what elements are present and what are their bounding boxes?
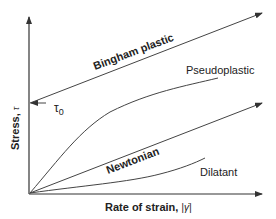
yield-stress-label: τ0	[54, 101, 64, 117]
pseudoplastic-curve	[30, 78, 218, 193]
rheology-diagram: τ0 Stress,τ Rate of strain,|γ̇| Bingham …	[0, 0, 276, 219]
pseudoplastic-label: Pseudoplastic	[186, 64, 255, 76]
x-axis-label: Rate of strain,|γ̇|	[105, 201, 192, 213]
y-axis-label: Stress,τ	[9, 106, 21, 150]
bingham-plastic-line	[30, 13, 262, 103]
dilatant-label: Dilatant	[200, 166, 237, 178]
newtonian-label: Newtonian	[104, 145, 160, 176]
